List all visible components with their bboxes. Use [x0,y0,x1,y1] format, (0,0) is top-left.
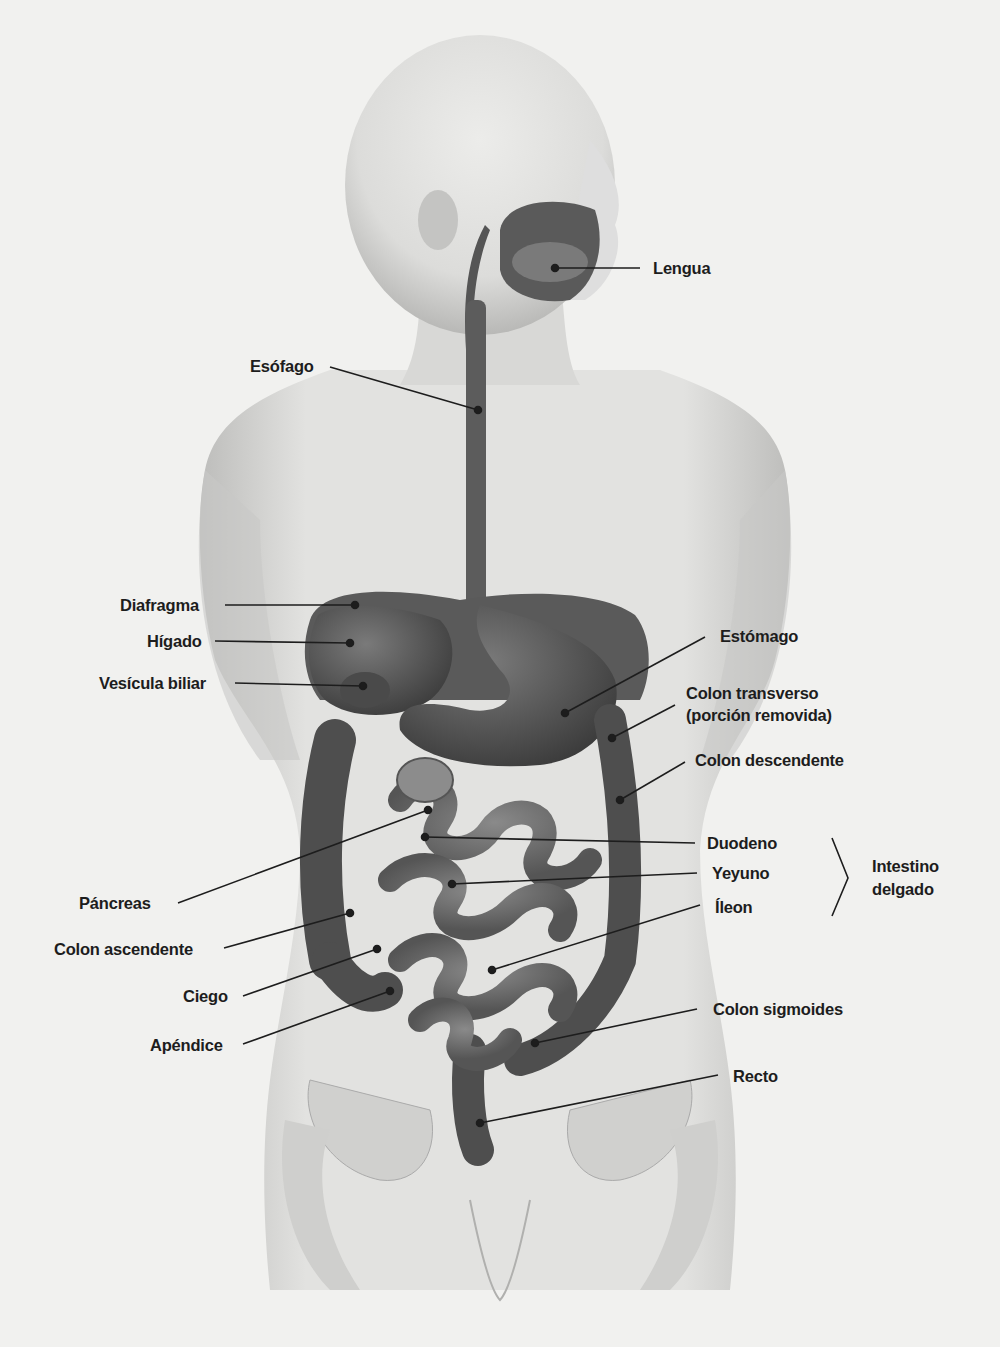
label-pancreas: Páncreas [79,893,151,913]
label-apendice: Apéndice [150,1035,223,1055]
label-intestino-delgado-2: delgado [872,879,934,899]
label-colon-ascendente: Colon ascendente [54,939,193,959]
small-intestine-bracket [832,838,848,916]
gallbladder [340,672,390,708]
label-ciego: Ciego [183,986,228,1006]
label-diafragma: Diafragma [120,595,199,615]
label-colon-sigmoides: Colon sigmoides [713,999,843,1019]
label-estomago: Estómago [720,626,798,646]
label-intestino-delgado: Intestino [872,856,939,876]
label-recto: Recto [733,1066,778,1086]
label-colon-transverso-note: (porción removida) [686,705,832,725]
label-higado: Hígado [147,631,202,651]
label-duodeno: Duodeno [707,833,777,853]
label-colon-descendente: Colon descendente [695,750,844,770]
label-lengua: Lengua [653,258,710,278]
pancreas [397,758,453,802]
label-vesicula-biliar: Vesícula biliar [99,673,206,693]
label-ileon: Íleon [715,897,753,917]
label-esofago: Esófago [250,356,314,376]
label-colon-transverso: Colon transverso [686,683,819,703]
label-yeyuno: Yeyuno [712,863,770,883]
